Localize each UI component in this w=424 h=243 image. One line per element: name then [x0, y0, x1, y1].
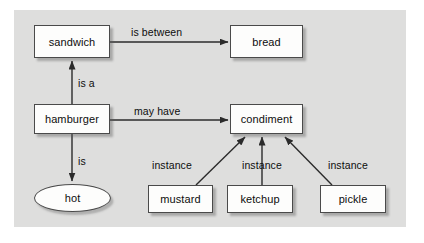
edge-label-instance-ketchup: instance: [242, 159, 282, 171]
edge-label-instance-pickle: instance: [328, 159, 368, 171]
diagram-canvas: sandwich bread hamburger condiment hot m…: [0, 0, 424, 243]
node-ketchup[interactable]: ketchup: [227, 185, 293, 213]
node-label: condiment: [241, 113, 293, 125]
node-sandwich[interactable]: sandwich: [34, 25, 110, 58]
edge-label-instance-mustard: instance: [152, 159, 192, 171]
node-bread[interactable]: bread: [230, 25, 303, 58]
edge-label-is-between: is between: [131, 26, 182, 38]
node-hot[interactable]: hot: [34, 184, 111, 212]
edge-label-may-have: may have: [134, 105, 180, 117]
node-label: ketchup: [240, 193, 279, 205]
edge-label-is: is: [78, 155, 86, 167]
node-label: hot: [65, 192, 81, 204]
node-label: sandwich: [49, 36, 96, 48]
node-label: hamburger: [45, 113, 99, 125]
node-label: mustard: [160, 193, 200, 205]
node-label: bread: [252, 36, 281, 48]
edge-label-is-a: is a: [78, 77, 95, 89]
node-label: pickle: [339, 193, 368, 205]
node-mustard[interactable]: mustard: [148, 185, 213, 213]
edge-pickle-condiment: [285, 137, 332, 185]
node-hamburger[interactable]: hamburger: [34, 104, 110, 134]
node-condiment[interactable]: condiment: [230, 104, 303, 134]
node-pickle[interactable]: pickle: [320, 185, 386, 213]
edge-mustard-condiment: [196, 137, 245, 185]
